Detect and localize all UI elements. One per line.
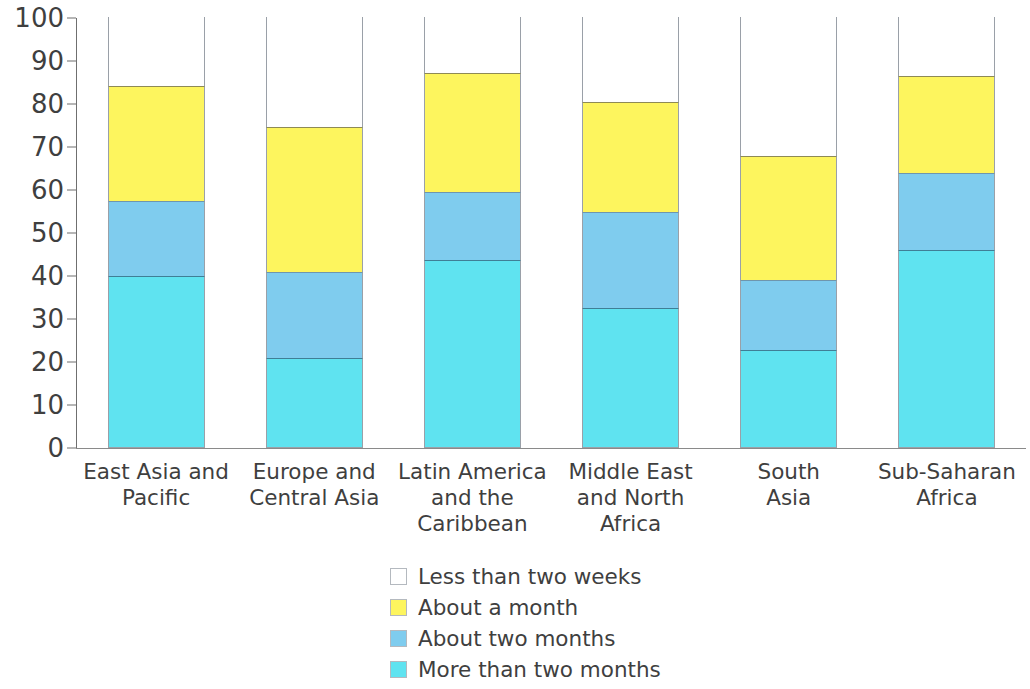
bar-segment[interactable] bbox=[424, 192, 521, 260]
bar-segment[interactable] bbox=[740, 156, 837, 280]
chart-legend: Less than two weeksAbout a monthAbout tw… bbox=[390, 561, 661, 685]
bar-segment[interactable] bbox=[266, 127, 363, 272]
stacked-bar-chart: 0102030405060708090100 East Asia andPaci… bbox=[0, 0, 1030, 689]
bar-segment[interactable] bbox=[582, 212, 679, 307]
bar-segment[interactable] bbox=[898, 76, 995, 173]
y-axis-tick-label: 0 bbox=[47, 435, 64, 461]
x-axis-label: Middle Eastand NorthAfrica bbox=[540, 459, 722, 537]
bar-stack bbox=[266, 18, 363, 448]
bar-segment[interactable] bbox=[108, 17, 205, 86]
bar-column[interactable] bbox=[108, 18, 205, 448]
y-axis-tick-mark bbox=[67, 147, 76, 148]
x-axis-label-line: Middle East bbox=[540, 459, 722, 485]
y-axis-tick-label: 70 bbox=[31, 134, 64, 160]
y-axis-tick-mark bbox=[67, 362, 76, 363]
x-axis-label: SouthAsia bbox=[698, 459, 880, 511]
x-axis-label-line: Pacific bbox=[65, 485, 247, 511]
x-axis-label-line: Europe and bbox=[223, 459, 405, 485]
x-axis-label-line: Sub-Saharan bbox=[856, 459, 1030, 485]
legend-item[interactable]: About two months bbox=[390, 623, 661, 654]
bar-segment[interactable] bbox=[898, 250, 995, 447]
x-axis-label-line: Africa bbox=[540, 511, 722, 537]
y-axis-tick-mark bbox=[67, 190, 76, 191]
bar-segment[interactable] bbox=[898, 17, 995, 76]
bar-column[interactable] bbox=[424, 18, 521, 448]
y-axis: 0102030405060708090100 bbox=[0, 0, 84, 460]
legend-item[interactable]: Less than two weeks bbox=[390, 561, 661, 592]
y-axis-tick-mark bbox=[67, 104, 76, 105]
y-axis-tick-label: 50 bbox=[31, 220, 64, 246]
x-axis-label: Sub-SaharanAfrica bbox=[856, 459, 1030, 511]
x-axis-label-line: Latin America bbox=[381, 459, 563, 485]
legend-label: More than two months bbox=[418, 659, 661, 681]
legend-label: About two months bbox=[418, 628, 615, 650]
bar-column[interactable] bbox=[266, 18, 363, 448]
bar-segment[interactable] bbox=[424, 260, 521, 447]
x-axis-label-line: East Asia and bbox=[65, 459, 247, 485]
bar-segment[interactable] bbox=[108, 201, 205, 276]
x-axis-label-line: Central Asia bbox=[223, 485, 405, 511]
y-axis-tick-mark bbox=[67, 18, 76, 19]
bar-stack bbox=[424, 18, 521, 448]
bar-segment[interactable] bbox=[266, 358, 363, 447]
bar-segment[interactable] bbox=[266, 272, 363, 357]
bar-segment[interactable] bbox=[582, 102, 679, 213]
x-axis-label-line: and North bbox=[540, 485, 722, 511]
bar-segment[interactable] bbox=[424, 17, 521, 73]
bar-column[interactable] bbox=[898, 18, 995, 448]
x-axis-label-line: South bbox=[698, 459, 880, 485]
legend-swatch-icon bbox=[390, 599, 407, 616]
bar-segment[interactable] bbox=[740, 280, 837, 350]
bar-segment[interactable] bbox=[108, 276, 205, 447]
legend-item[interactable]: About a month bbox=[390, 592, 661, 623]
x-axis-label-line: Africa bbox=[856, 485, 1030, 511]
bar-segment[interactable] bbox=[740, 17, 837, 156]
bar-segment[interactable] bbox=[740, 350, 837, 447]
y-axis-tick-mark bbox=[67, 276, 76, 277]
y-axis-tick-label: 10 bbox=[31, 392, 64, 418]
y-axis-tick-label: 80 bbox=[31, 91, 64, 117]
legend-label: Less than two weeks bbox=[418, 566, 641, 588]
y-axis-tick-mark bbox=[67, 61, 76, 62]
legend-item[interactable]: More than two months bbox=[390, 654, 661, 685]
y-axis-tick-label: 30 bbox=[31, 306, 64, 332]
x-axis-line bbox=[76, 448, 1026, 449]
x-axis-label-line: Caribbean bbox=[381, 511, 563, 537]
y-axis-tick-label: 90 bbox=[31, 48, 64, 74]
y-axis-tick-mark bbox=[67, 405, 76, 406]
x-axis-label: East Asia andPacific bbox=[65, 459, 247, 511]
y-axis-tick-mark bbox=[67, 233, 76, 234]
bar-column[interactable] bbox=[582, 18, 679, 448]
bar-stack bbox=[898, 18, 995, 448]
legend-swatch-icon bbox=[390, 568, 407, 585]
bar-stack bbox=[740, 18, 837, 448]
bar-segment[interactable] bbox=[582, 308, 679, 447]
y-axis-tick-mark bbox=[67, 319, 76, 320]
bar-stack bbox=[108, 18, 205, 448]
legend-swatch-icon bbox=[390, 661, 407, 678]
y-axis-tick-label: 60 bbox=[31, 177, 64, 203]
bar-segment[interactable] bbox=[582, 17, 679, 102]
legend-swatch-icon bbox=[390, 630, 407, 647]
x-axis-label-line: and the bbox=[381, 485, 563, 511]
x-axis-label: Europe andCentral Asia bbox=[223, 459, 405, 511]
x-axis-label-line: Asia bbox=[698, 485, 880, 511]
y-axis-tick-label: 100 bbox=[14, 5, 64, 31]
plot-area bbox=[77, 18, 1026, 448]
legend-label: About a month bbox=[418, 597, 578, 619]
bar-stack bbox=[582, 18, 679, 448]
bar-segment[interactable] bbox=[424, 73, 521, 191]
bar-segment[interactable] bbox=[266, 17, 363, 127]
bar-segment[interactable] bbox=[108, 86, 205, 201]
bar-segment[interactable] bbox=[898, 173, 995, 250]
bar-column[interactable] bbox=[740, 18, 837, 448]
y-axis-tick-mark bbox=[67, 448, 76, 449]
y-axis-tick-label: 20 bbox=[31, 349, 64, 375]
y-axis-tick-label: 40 bbox=[31, 263, 64, 289]
x-axis-label: Latin Americaand theCaribbean bbox=[381, 459, 563, 537]
